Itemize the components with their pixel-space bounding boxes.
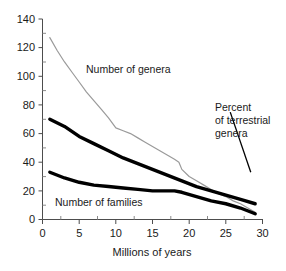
annotation-percent-line-3: genera <box>215 127 248 139</box>
y-tick-label-0: 0 <box>29 213 35 225</box>
x-axis-title: Millions of years <box>113 246 192 258</box>
y-tick-label-40: 40 <box>23 156 35 168</box>
x-tick-label-10: 10 <box>110 227 122 239</box>
y-tick-label-60: 60 <box>23 127 35 139</box>
x-tick-label-0: 0 <box>39 227 45 239</box>
line-chart-svg: 0 20 40 60 80 100 120 140 0 5 10 15 20 2… <box>0 0 286 271</box>
x-tick-label-15: 15 <box>146 227 158 239</box>
y-tick-label-100: 100 <box>17 70 35 82</box>
x-tick-label-30: 30 <box>256 227 268 239</box>
y-tick-label-20: 20 <box>23 185 35 197</box>
y-tick-label-120: 120 <box>17 41 35 53</box>
annotation-percent-line-1: Percent <box>215 101 251 113</box>
annotation-percent-line-2: of terrestrial <box>215 114 270 126</box>
y-tick-label-80: 80 <box>23 99 35 111</box>
x-tick-label-20: 20 <box>183 227 195 239</box>
chart-figure: 0 20 40 60 80 100 120 140 0 5 10 15 20 2… <box>0 0 286 271</box>
x-tick-label-5: 5 <box>76 227 82 239</box>
x-tick-label-25: 25 <box>220 227 232 239</box>
annotation-number-of-families: Number of families <box>55 196 143 208</box>
y-tick-label-140: 140 <box>17 13 35 25</box>
annotation-number-of-genera: Number of genera <box>86 63 171 75</box>
